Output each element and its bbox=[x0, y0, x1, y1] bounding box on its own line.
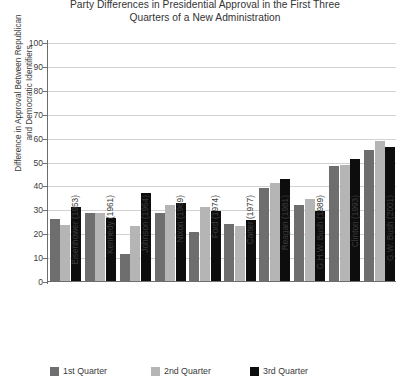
x-axis-label: Johnson (1964) bbox=[139, 195, 151, 289]
y-tick-mark bbox=[43, 234, 47, 235]
y-tick-mark bbox=[43, 139, 47, 140]
bar[interactable] bbox=[155, 213, 165, 281]
legend-item-q2[interactable]: 2nd Quarter bbox=[151, 364, 211, 378]
legend-item-q3[interactable]: 3rd Quarter bbox=[250, 364, 308, 378]
x-axis-label: Kennedy (1961) bbox=[104, 195, 116, 289]
y-tick-mark bbox=[43, 115, 47, 116]
legend-item-q1[interactable]: 1st Quarter bbox=[50, 364, 107, 378]
x-axis-label: G.W. Bush (2001) bbox=[384, 195, 396, 289]
bar[interactable] bbox=[259, 188, 269, 281]
x-axis-line bbox=[47, 281, 396, 282]
legend-label: 3rd Quarter bbox=[263, 366, 308, 376]
x-axis-label: Clinton (1993) bbox=[349, 195, 361, 289]
plot-area: 1009080706050403020100 bbox=[47, 42, 396, 282]
bar[interactable] bbox=[120, 254, 130, 281]
bar[interactable] bbox=[364, 150, 374, 281]
legend-label: 1st Quarter bbox=[63, 366, 107, 376]
y-tick-mark bbox=[43, 163, 47, 164]
x-axis-label: Ford (1974) bbox=[209, 195, 221, 289]
chart-title-line-1: Party Differences in Presidential Approv… bbox=[22, 0, 388, 11]
y-tick-label: 70 bbox=[13, 110, 43, 120]
y-tick-label: 90 bbox=[13, 62, 43, 72]
y-tick-label: 60 bbox=[13, 134, 43, 144]
chart-title: Party Differences in Presidential Approv… bbox=[22, 0, 388, 24]
legend-swatch-icon bbox=[151, 367, 160, 376]
y-tick-label: 50 bbox=[13, 158, 43, 168]
x-axis-label: G.H.W. Bush (1989) bbox=[314, 195, 326, 289]
y-tick-mark bbox=[43, 67, 47, 68]
bar[interactable] bbox=[294, 205, 304, 281]
y-tick-label: 0 bbox=[13, 277, 43, 287]
y-tick-label: 100 bbox=[13, 38, 43, 48]
y-tick-mark bbox=[43, 282, 47, 283]
y-tick-label: 40 bbox=[13, 181, 43, 191]
bar[interactable] bbox=[50, 219, 60, 281]
bar-chart: Party Differences in Presidential Approv… bbox=[0, 0, 406, 392]
y-tick-mark bbox=[43, 43, 47, 44]
y-tick-label: 10 bbox=[13, 253, 43, 263]
y-tick-mark bbox=[43, 186, 47, 187]
x-axis-label: Nixon (1969) bbox=[174, 195, 186, 289]
bar[interactable] bbox=[224, 224, 234, 281]
x-axis-label: Reagan (1981) bbox=[279, 195, 291, 289]
y-tick-mark bbox=[43, 258, 47, 259]
legend-swatch-icon bbox=[250, 367, 259, 376]
bar[interactable] bbox=[189, 232, 199, 281]
y-tick-mark bbox=[43, 91, 47, 92]
x-axis-label: Carter (1977) bbox=[244, 195, 256, 289]
bar[interactable] bbox=[85, 213, 95, 281]
chart-title-line-2: Quarters of a New Administration bbox=[22, 11, 388, 24]
y-tick-mark bbox=[43, 210, 47, 211]
legend-swatch-icon bbox=[50, 367, 59, 376]
x-axis-label: Eisenhower (1953) bbox=[69, 195, 81, 289]
bar[interactable] bbox=[329, 166, 339, 281]
y-tick-label: 30 bbox=[13, 205, 43, 215]
legend-label: 2nd Quarter bbox=[164, 366, 211, 376]
y-tick-label: 80 bbox=[13, 86, 43, 96]
y-tick-label: 20 bbox=[13, 229, 43, 239]
